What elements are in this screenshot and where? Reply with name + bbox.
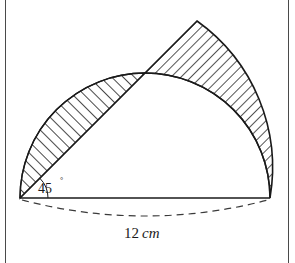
figure-root: 45 ° 12 cm xyxy=(0,0,295,263)
angle-label-value: 45 xyxy=(38,181,52,196)
degree-symbol-icon: ° xyxy=(60,176,63,185)
dashed-base-arc xyxy=(22,200,268,216)
geometry-diagram: 45 ° 12 cm xyxy=(0,0,295,263)
length-label-unit: cm xyxy=(142,225,160,241)
length-label-number: 12 xyxy=(124,225,139,241)
